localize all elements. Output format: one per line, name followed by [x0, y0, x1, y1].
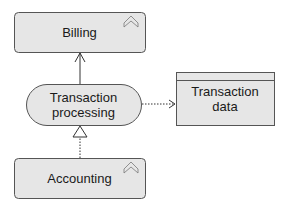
edge-accounting-to-processing	[73, 126, 87, 158]
transaction-processing-label: Transaction processing	[26, 90, 141, 120]
edge-processing-to-data	[142, 100, 175, 108]
transaction-data-label-line1: Transaction	[176, 84, 274, 99]
edge-processing-to-billing	[75, 53, 85, 84]
accounting-label: Accounting	[14, 171, 145, 186]
billing-label: Billing	[14, 25, 145, 40]
transaction-processing-label-line1: Transaction	[26, 90, 141, 105]
transaction-data-label: Transaction data	[176, 84, 274, 114]
transaction-data-label-line2: data	[176, 99, 274, 114]
transaction-processing-label-line2: processing	[26, 105, 141, 120]
